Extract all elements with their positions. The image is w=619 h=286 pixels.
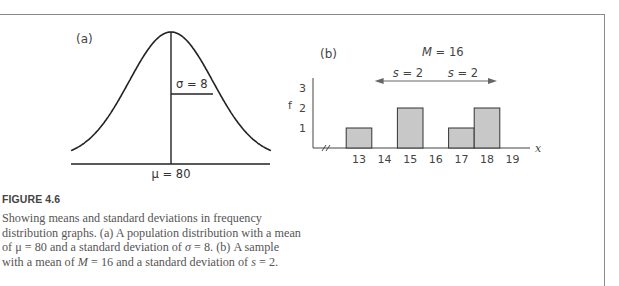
arrow-right-head: [488, 78, 497, 84]
figure-graphs: (a) σ = 8 μ = 80 (b) M = 16 s = 2 s = 2 …: [0, 0, 619, 190]
histogram-bar: [474, 108, 500, 148]
y-tick-label: 3: [299, 82, 306, 95]
x-tick-label: 16: [429, 153, 443, 166]
x-tick-label: 19: [506, 153, 520, 166]
x-tick-label: 15: [403, 153, 417, 166]
sd-right-label: s = 2: [448, 66, 478, 80]
x-tick-label: 18: [480, 153, 494, 166]
panel-a-label: (a): [76, 32, 93, 46]
figure-title: FIGURE 4.6: [2, 193, 60, 205]
y-tick-label: 1: [299, 122, 306, 135]
histogram-bar: [346, 128, 372, 148]
y-tick-label: 2: [299, 102, 306, 115]
histogram-bar: [397, 108, 423, 148]
y-axis-label: f: [288, 99, 293, 112]
x-tick-label: 14: [378, 153, 392, 166]
sd-left-label: s = 2: [393, 66, 423, 80]
panel-a: (a) σ = 8 μ = 80: [71, 32, 271, 181]
sd-label: σ = 8: [176, 77, 208, 91]
x-tick-label: 13: [352, 153, 366, 166]
sample-mean-label: M = 16: [422, 45, 464, 59]
x-tick-label: 17: [454, 153, 468, 166]
panel-b: (b) M = 16 s = 2 s = 2 x f 1314151617181…: [288, 45, 542, 166]
histogram-bar: [449, 128, 475, 148]
mean-label: μ = 80: [152, 167, 191, 181]
x-axis-label: x: [535, 142, 542, 155]
figure-caption: Showing means and standard deviations in…: [2, 211, 302, 269]
arrow-left-head: [375, 78, 384, 84]
panel-b-label: (b): [320, 47, 337, 61]
